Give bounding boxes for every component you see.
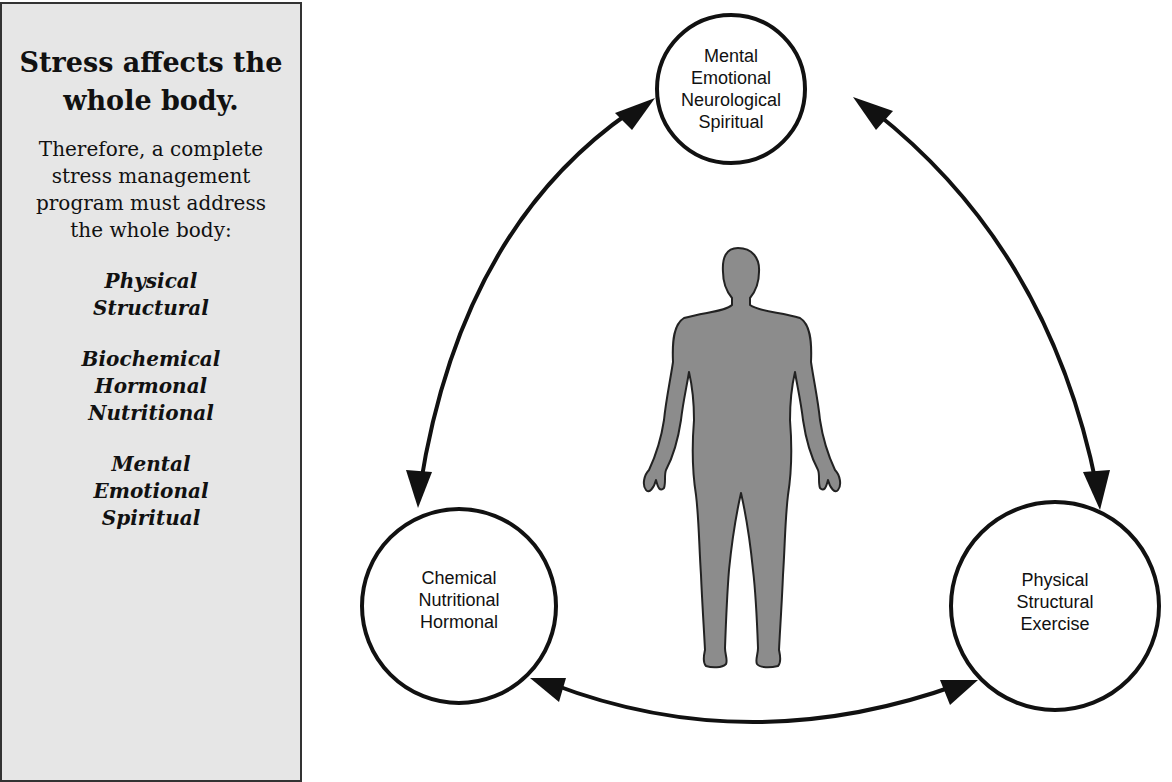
node-left-line: Nutritional bbox=[379, 589, 539, 611]
node-top-line: Spiritual bbox=[661, 111, 801, 133]
arrowhead-icon bbox=[530, 678, 566, 702]
arrow-top-left bbox=[420, 112, 630, 488]
arrowhead-icon bbox=[853, 97, 893, 130]
arrowhead-icon bbox=[940, 680, 978, 705]
node-left-line: Chemical bbox=[379, 567, 539, 589]
node-label-right: Physical Structural Exercise bbox=[975, 569, 1135, 635]
arrowhead-icon bbox=[406, 470, 432, 508]
arrowhead-icon bbox=[615, 98, 655, 130]
node-label-left: Chemical Nutritional Hormonal bbox=[379, 567, 539, 633]
node-right-line: Physical bbox=[975, 569, 1135, 591]
node-top-line: Neurological bbox=[661, 89, 801, 111]
node-top-line: Mental bbox=[661, 45, 801, 67]
arrowhead-icon bbox=[1083, 470, 1110, 510]
node-right-line: Structural bbox=[975, 591, 1135, 613]
arrow-top-right bbox=[875, 112, 1097, 488]
node-label-top: Mental Emotional Neurological Spiritual bbox=[661, 45, 801, 133]
node-right-line: Exercise bbox=[975, 613, 1135, 635]
arrow-left-right bbox=[552, 684, 960, 722]
node-top-line: Emotional bbox=[661, 67, 801, 89]
node-left-line: Hormonal bbox=[379, 611, 539, 633]
human-body-icon bbox=[644, 248, 840, 667]
